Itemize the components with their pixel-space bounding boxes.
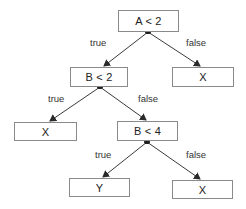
node-label: B < 2 bbox=[86, 71, 113, 83]
node-label: Y bbox=[96, 182, 104, 194]
edge-label-true: true bbox=[95, 150, 111, 160]
edge-b4-false bbox=[147, 142, 200, 179]
edge-label-false: false bbox=[186, 150, 206, 160]
node-label: X bbox=[199, 184, 207, 196]
node-a-less-2: A < 2 bbox=[118, 10, 179, 32]
node-label: A < 2 bbox=[135, 15, 161, 27]
node-b-less-4: B < 4 bbox=[117, 121, 178, 141]
edge-label-true: true bbox=[48, 94, 64, 104]
edge-label-true: true bbox=[90, 38, 106, 48]
node-label: B < 4 bbox=[134, 125, 161, 137]
node-b-less-2: B < 2 bbox=[70, 67, 128, 87]
node-label: X bbox=[42, 126, 50, 138]
node-label: X bbox=[199, 71, 207, 83]
node-leaf-x-bottom: X bbox=[172, 180, 233, 199]
edge-label-false: false bbox=[186, 38, 206, 48]
decision-tree-diagram: A < 2 B < 2 X X B < 4 Y X true false tru… bbox=[0, 0, 246, 209]
node-leaf-x-left: X bbox=[14, 122, 77, 141]
node-leaf-y: Y bbox=[69, 178, 130, 197]
edge-a2-true bbox=[104, 32, 148, 66]
node-leaf-x-right: X bbox=[172, 67, 234, 87]
edge-label-false: false bbox=[138, 94, 158, 104]
